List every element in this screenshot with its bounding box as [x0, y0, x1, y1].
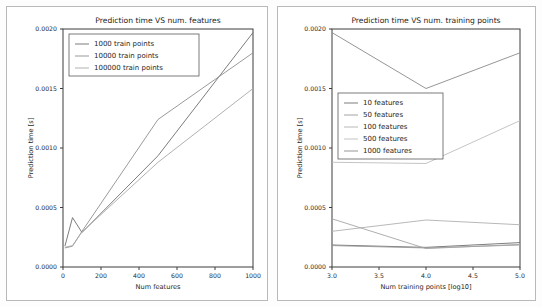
y-tick-label: 0.0010 [35, 144, 57, 151]
x-axis-label: Num features [136, 283, 181, 291]
y-tick-label: 0.0010 [304, 144, 326, 151]
series-line [65, 89, 253, 248]
x-axis-label: Num training points [log10] [380, 283, 471, 291]
x-tick-label: 400 [133, 272, 145, 279]
y-tick-label: 0.0015 [304, 85, 326, 92]
y-tick-label: 0.0000 [35, 263, 57, 270]
legend-label: 100 features [363, 123, 408, 131]
y-tick-label: 0.0005 [304, 204, 326, 211]
y-tick-label: 0.0020 [35, 25, 57, 32]
legend-label: 50 features [363, 111, 403, 119]
legend-label: 10000 train points [94, 52, 159, 60]
x-tick-label: 800 [209, 272, 221, 279]
chart-title: Prediction time VS num. features [95, 16, 220, 25]
x-tick-label: 0 [61, 272, 65, 279]
right-chart-svg: Prediction time VS num. training points3… [278, 7, 535, 300]
series-line [332, 220, 520, 231]
y-tick-label: 0.0005 [35, 204, 57, 211]
y-tick-label: 0.0000 [304, 263, 326, 270]
x-tick-label: 3.0 [327, 272, 337, 279]
y-axis-label: Prediction time [s] [27, 118, 35, 178]
series-line [65, 53, 253, 248]
chart-panel-prediction-time-vs-num-features: Prediction time VS num. features02004006… [6, 6, 268, 301]
x-tick-label: 600 [171, 272, 183, 279]
left-chart-svg: Prediction time VS num. features02004006… [7, 7, 267, 300]
legend-label: 500 features [363, 135, 408, 143]
y-axis-label: Prediction time [s] [296, 118, 304, 178]
chart-title: Prediction time VS num. training points [351, 16, 500, 25]
x-tick-label: 1000 [245, 272, 261, 279]
x-tick-label: 200 [95, 272, 107, 279]
x-tick-label: 4.5 [468, 272, 478, 279]
x-tick-label: 3.5 [374, 272, 384, 279]
legend-label: 1000 train points [94, 40, 154, 48]
x-tick-label: 5.0 [515, 272, 525, 279]
y-tick-label: 0.0015 [35, 85, 57, 92]
legend-label: 10 features [363, 99, 403, 107]
x-tick-label: 4.0 [421, 272, 431, 279]
series-line [332, 33, 520, 89]
legend-label: 1000 features [363, 147, 412, 155]
chart-panel-prediction-time-vs-num-training-points: Prediction time VS num. training points3… [277, 6, 536, 301]
y-tick-label: 0.0020 [304, 25, 326, 32]
legend-label: 100000 train points [94, 64, 163, 72]
figure-canvas: Prediction time VS num. features02004006… [0, 0, 542, 307]
